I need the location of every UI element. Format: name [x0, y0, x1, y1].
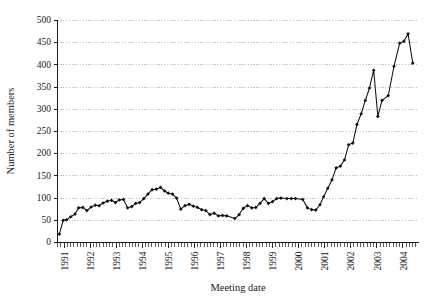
x-tick-label: 1998 — [242, 251, 252, 270]
data-point-marker — [187, 202, 191, 206]
data-point-marker — [294, 197, 298, 201]
x-tick-label: 1994 — [138, 251, 148, 270]
x-tick-label: 1997 — [216, 251, 226, 270]
data-point-marker — [126, 206, 130, 210]
x-axis-ticks — [58, 243, 416, 249]
x-axis-title: Meeting date — [210, 282, 265, 293]
data-point-marker — [250, 206, 254, 210]
y-tick-label: 200 — [37, 148, 52, 158]
data-point-marker — [326, 186, 330, 190]
data-point-marker — [191, 204, 195, 208]
x-tick-label: 1996 — [190, 251, 200, 270]
data-point-marker — [368, 86, 372, 90]
y-tick-label: 250 — [37, 126, 52, 136]
chart-figure: 050100150200250300350400450500 199119921… — [0, 0, 431, 301]
data-point-marker — [225, 214, 229, 218]
series-line — [59, 34, 412, 234]
y-tick-label: 400 — [37, 60, 52, 70]
data-point-marker — [359, 112, 363, 116]
x-tick-label: 2001 — [320, 251, 330, 270]
y-tick-label: 500 — [37, 15, 52, 25]
x-tick-label: 1995 — [164, 251, 174, 270]
y-tick-label: 150 — [37, 171, 52, 181]
data-point-marker — [285, 197, 289, 201]
y-axis-tick-labels: 050100150200250300350400450500 — [37, 15, 52, 247]
data-point-marker — [200, 208, 204, 212]
gridlines — [58, 21, 419, 221]
x-tick-label: 1993 — [112, 251, 122, 270]
line-chart-canvas: 050100150200250300350400450500 199119921… — [0, 0, 431, 301]
data-point-marker — [398, 41, 402, 45]
data-point-marker — [196, 206, 200, 210]
data-point-marker — [93, 203, 97, 207]
y-tick-label: 350 — [37, 82, 52, 92]
x-tick-label: 1999 — [268, 251, 278, 270]
y-tick-label: 0 — [46, 237, 51, 247]
x-axis-tick-labels: 1991199219931994199519961997199819992000… — [60, 251, 409, 270]
data-point-marker — [363, 99, 367, 103]
data-point-marker — [347, 143, 351, 147]
data-point-marker — [310, 208, 314, 212]
data-point-marker — [330, 178, 334, 182]
data-point-marker — [105, 199, 109, 203]
y-tick-label: 50 — [42, 215, 52, 225]
data-point-marker — [61, 218, 65, 222]
data-point-marker — [279, 196, 283, 200]
data-series — [57, 32, 414, 236]
data-point-marker — [221, 214, 225, 218]
x-tick-label: 2000 — [294, 251, 304, 270]
data-point-marker — [351, 141, 355, 145]
x-tick-label: 2004 — [399, 251, 409, 270]
y-axis-title: Number of members — [5, 88, 16, 175]
y-tick-label: 300 — [37, 104, 52, 114]
data-point-marker — [376, 115, 380, 119]
data-point-marker — [289, 197, 293, 201]
y-tick-label: 450 — [37, 37, 52, 47]
data-point-marker — [154, 187, 158, 191]
x-tick-label: 2002 — [346, 251, 356, 270]
data-point-marker — [372, 68, 376, 72]
x-tick-label: 1992 — [86, 251, 96, 270]
data-point-marker — [411, 61, 415, 65]
data-point-marker — [322, 195, 326, 199]
x-tick-label: 2003 — [373, 251, 383, 270]
y-tick-label: 100 — [37, 193, 52, 203]
data-point-marker — [334, 166, 338, 170]
data-point-marker — [392, 64, 396, 68]
data-point-marker — [355, 123, 359, 127]
x-tick-label: 1991 — [60, 251, 70, 270]
